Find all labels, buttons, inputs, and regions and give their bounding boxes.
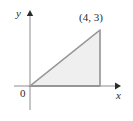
origin-label: 0 <box>20 88 26 99</box>
x-axis-label: x <box>116 90 121 101</box>
y-axis-arrowhead-icon <box>27 10 33 16</box>
vertex-coordinate-label: (4, 3) <box>79 12 103 23</box>
y-axis-label: y <box>16 8 21 19</box>
triangle-figure: y x 0 (4, 3) <box>0 0 133 121</box>
